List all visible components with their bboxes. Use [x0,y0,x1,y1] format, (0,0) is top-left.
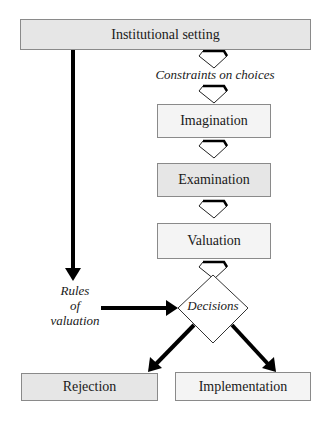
hollow-arrow-icon [199,201,227,218]
hollow-arrow-icon [199,86,227,103]
arrow-down-left-icon [65,50,81,281]
node-label: Examination [178,172,250,188]
node-label: Rejection [63,379,117,395]
arrow-right-icon [101,300,178,316]
node-institutional-setting: Institutional setting [20,19,311,50]
node-label: Institutional setting [111,27,220,43]
node-examination: Examination [157,163,271,197]
node-imagination: Imagination [157,104,271,138]
node-implementation: Implementation [175,372,311,401]
label-constraints: Constraints on choices [140,67,290,83]
hollow-arrow-icon [199,51,227,68]
node-label: Imagination [180,113,248,129]
rules-line: valuation [40,313,110,328]
arrow-down-right-diagonal-icon [232,325,276,372]
rules-line: of [40,298,110,313]
label-rules-of-valuation: Rules of valuation [40,283,110,328]
connector-layer [0,0,329,421]
node-rejection: Rejection [21,373,158,401]
hollow-arrow-icon [199,141,227,158]
node-label: Implementation [199,379,288,395]
rules-line: Rules [40,283,110,298]
arrow-down-left-diagonal-icon [148,325,194,372]
node-label: Valuation [187,233,241,249]
label-decisions: Decisions [178,298,248,314]
node-valuation: Valuation [157,223,271,259]
